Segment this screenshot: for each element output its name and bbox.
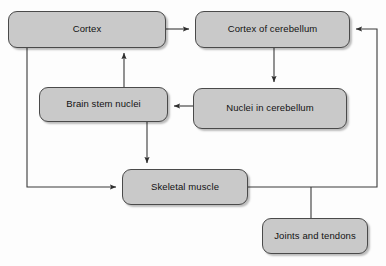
node-cortex[interactable]: Cortex [8, 11, 166, 48]
node-cortex-of-cerebellum[interactable]: Cortex of cerebellum [195, 11, 350, 48]
node-nuclei-in-cerebellum-label: Nuclei in cerebellum [226, 103, 314, 113]
diagram-canvas: Cortex Cortex of cerebellum Brain stem n… [0, 0, 386, 266]
node-skeletal-muscle-label: Skeletal muscle [151, 182, 219, 192]
node-joints-and-tendons-label: Joints and tendons [274, 231, 356, 241]
node-joints-and-tendons[interactable]: Joints and tendons [262, 218, 368, 254]
clipped-caption-remnant [6, 259, 306, 266]
node-brain-stem-nuclei[interactable]: Brain stem nuclei [39, 87, 168, 122]
node-nuclei-in-cerebellum[interactable]: Nuclei in cerebellum [193, 88, 347, 129]
node-skeletal-muscle[interactable]: Skeletal muscle [122, 169, 248, 205]
node-brain-stem-nuclei-label: Brain stem nuclei [66, 99, 141, 109]
node-cortex-label: Cortex [73, 24, 102, 34]
node-cortex-of-cerebellum-label: Cortex of cerebellum [228, 24, 318, 34]
